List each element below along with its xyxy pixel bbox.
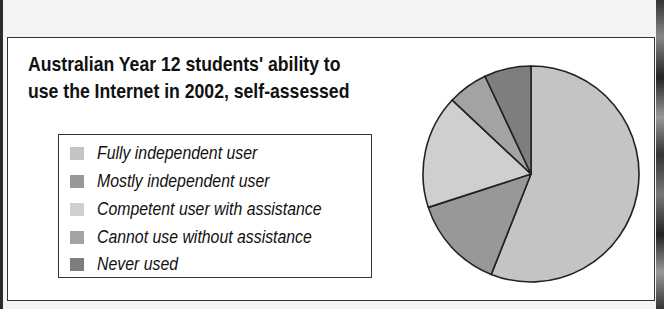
legend-label: Mostly independent user [97, 171, 270, 192]
chart-legend: Fully independent user Mostly independen… [58, 134, 372, 278]
legend-label: Cannot use without assistance [97, 227, 312, 248]
chart-title-line-2: use the Internet in 2002, self-assessed [28, 77, 349, 104]
legend-swatch [70, 258, 84, 271]
legend-label: Competent user with assistance [97, 199, 322, 220]
chart-title: Australian Year 12 students' ability to … [28, 50, 349, 104]
legend-swatch [70, 231, 84, 244]
legend-swatch [70, 147, 84, 160]
legend-item-never-used: Never used [70, 252, 189, 276]
legend-label: Never used [97, 254, 178, 275]
page-edge-right [656, 0, 664, 309]
legend-item-mostly-independent: Mostly independent user [70, 169, 293, 193]
legend-label: Fully independent user [97, 143, 257, 164]
chart-title-line-1: Australian Year 12 students' ability to [28, 50, 349, 77]
legend-item-fully-independent: Fully independent user [70, 141, 279, 165]
chart-panel: Australian Year 12 students' ability to … [7, 37, 655, 301]
legend-swatch [70, 203, 84, 216]
legend-item-competent-with-assistance: Competent user with assistance [70, 197, 352, 221]
page-edge-left [0, 0, 3, 309]
legend-item-cannot-use: Cannot use without assistance [70, 225, 341, 249]
pie-chart [420, 58, 644, 288]
legend-swatch [70, 175, 84, 188]
